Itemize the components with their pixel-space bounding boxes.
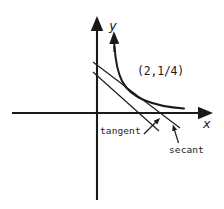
tangent-label: tangent <box>100 126 141 136</box>
tangent-pointer-arrow <box>144 122 156 134</box>
point-coordinate-label: (2,1/4) <box>137 66 184 78</box>
y-axis-label: y <box>109 19 117 32</box>
secant-label: secant <box>169 145 204 155</box>
figure-canvas: y x (2,1/4) tangent secant <box>0 0 224 209</box>
x-axis-label: x <box>203 117 211 130</box>
secant-pointer-arrow <box>175 130 179 143</box>
